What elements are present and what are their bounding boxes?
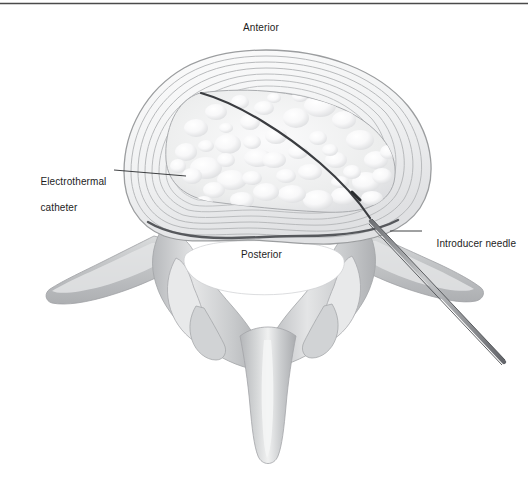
orientation-label-anterior: Anterior xyxy=(243,21,279,34)
callout-introducer-needle: Introducer needle xyxy=(425,224,516,263)
callout-electrothermal-catheter: Electrothermal catheter xyxy=(29,162,106,227)
callout-needle-line1: Introducer needle xyxy=(437,238,517,249)
vertebral-arch-group xyxy=(46,230,483,464)
orientation-label-posterior: Posterior xyxy=(241,248,282,261)
illustration-canvas: Anterior Posterior Electrothermal cathet… xyxy=(0,0,528,489)
callout-catheter-line1: Electrothermal xyxy=(41,176,107,187)
callout-catheter-line2: catheter xyxy=(41,202,78,213)
